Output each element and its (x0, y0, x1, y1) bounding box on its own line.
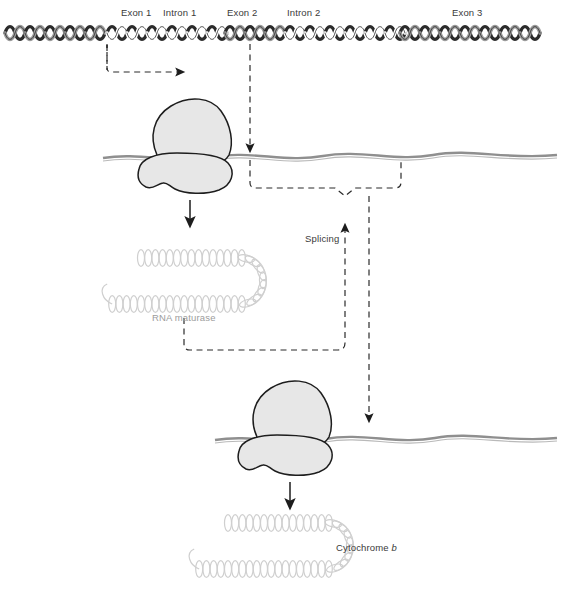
flow-transcription (107, 45, 180, 72)
diagram-svg (0, 0, 562, 600)
gene-label-exon-1: Exon 1 (121, 8, 151, 18)
splicing-bracket (250, 158, 401, 196)
gene-label-intron-2: Intron 2 (287, 8, 320, 18)
coil-cytochrome-b (189, 515, 355, 578)
ribosome-secondary (238, 381, 332, 475)
cytochrome-b-label-gene: b (392, 542, 397, 553)
helix-segment-exon-1 (5, 27, 105, 40)
protein-rna-maturase (102, 250, 268, 313)
figure-canvas: Exon 1 Intron 1 Exon 2 Intron 2 Exon 3 S… (0, 0, 562, 600)
rna-maturase-label: RNA maturase (152, 313, 216, 323)
helix-segment-intron-1 (107, 27, 227, 40)
helix-segment-exon-3 (400, 27, 540, 40)
gene-label-exon-3: Exon 3 (452, 8, 482, 18)
cytochrome-b-label: Cytochrome b (336, 543, 397, 553)
helix-segment-exon-2 (225, 27, 285, 40)
gene-double-helix (5, 27, 540, 40)
coil-rna-maturase (102, 250, 268, 313)
splicing-label: Splicing (305, 234, 339, 244)
helix-segment-intron-2 (285, 27, 405, 40)
gene-label-intron-1: Intron 1 (163, 8, 196, 18)
protein-cytochrome-b (189, 515, 355, 578)
gene-label-exon-2: Exon 2 (227, 8, 257, 18)
cytochrome-b-label-prefix: Cytochrome (336, 542, 392, 553)
ribosome-primary (138, 99, 232, 193)
